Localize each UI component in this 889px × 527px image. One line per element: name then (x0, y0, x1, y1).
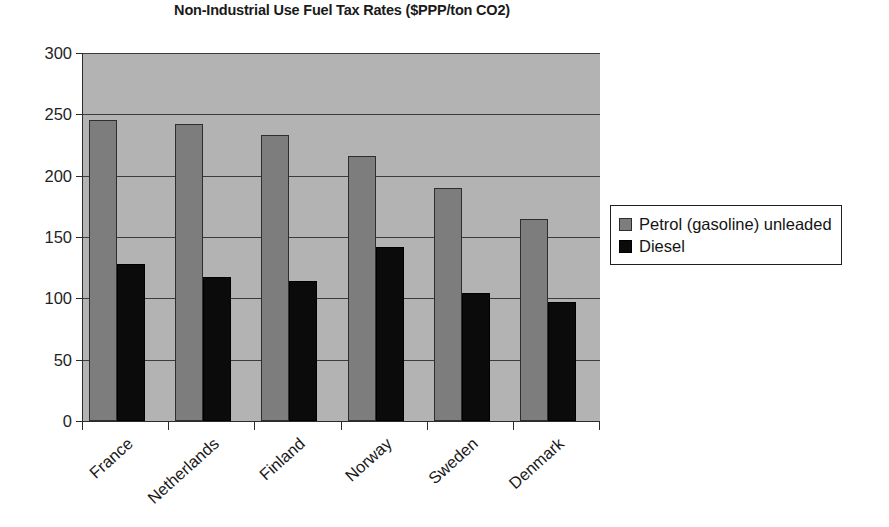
legend-item-diesel[interactable]: Diesel (619, 237, 832, 255)
y-axis-tick-marks (0, 53, 90, 421)
gridline (83, 176, 600, 177)
bar-norway-petrol (348, 156, 376, 421)
x-axis-tick-mark (599, 422, 600, 430)
bar-finland-diesel (289, 281, 317, 421)
legend-swatch-diesel-icon (619, 240, 632, 253)
gridline (83, 114, 600, 115)
legend-label: Petrol (gasoline) unleaded (639, 215, 832, 233)
chart-title: Non-Industrial Use Fuel Tax Rates ($PPP/… (82, 2, 602, 18)
bar-denmark-petrol (520, 219, 548, 421)
legend-label: Diesel (639, 237, 685, 255)
x-axis-tick-labels: FranceNetherlandsFinlandNorwaySwedenDenm… (0, 430, 700, 525)
x-axis-tick-mark (254, 422, 255, 430)
bar-finland-petrol (261, 135, 289, 421)
legend-item-petrol[interactable]: Petrol (gasoline) unleaded (619, 215, 832, 233)
x-axis-tick-mark (341, 422, 342, 430)
x-axis-tick-mark (427, 422, 428, 430)
plot-area (82, 53, 600, 422)
chart-legend: Petrol (gasoline) unleadedDiesel (610, 205, 842, 265)
bar-netherlands-diesel (203, 277, 231, 421)
x-axis-label-norway: Norway (341, 434, 395, 486)
bar-denmark-diesel (548, 302, 576, 421)
bar-chart: Non-Industrial Use Fuel Tax Rates ($PPP/… (0, 0, 889, 527)
x-axis-label-finland: Finland (256, 434, 309, 484)
x-axis-tick-mark (82, 422, 83, 430)
x-axis-label-france: France (86, 434, 137, 482)
gridline (83, 53, 600, 54)
x-axis-tick-mark (168, 422, 169, 430)
legend-swatch-petrol-icon (619, 218, 632, 231)
x-axis-label-denmark: Denmark (505, 434, 567, 493)
bar-netherlands-petrol (175, 124, 203, 421)
x-axis-label-sweden: Sweden (424, 434, 481, 488)
bar-sweden-diesel (462, 293, 490, 421)
bar-france-petrol (89, 120, 117, 421)
bar-norway-diesel (376, 247, 404, 421)
bar-france-diesel (117, 264, 145, 421)
bar-sweden-petrol (434, 188, 462, 421)
x-axis-label-netherlands: Netherlands (144, 434, 223, 508)
x-axis-tick-mark (513, 422, 514, 430)
